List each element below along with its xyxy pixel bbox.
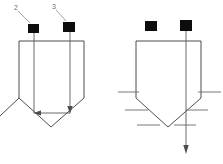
left-vessel-outline [19,41,84,127]
right-dim-down-arrowhead [183,145,188,154]
callout-3-leader-line [56,10,66,21]
left-vertical-dimension-up [31,26,36,113]
left-vertical-dimension-down [67,30,72,114]
right-vessel-diagram [118,20,221,154]
right-marker-square-a [145,21,157,31]
right-vertical-dimension-down [183,30,188,154]
figure-root: 2 3 [0,0,223,164]
left-marker-square-a [28,24,39,33]
left-vessel-diagram: 2 3 [0,3,84,127]
callout-3-label: 3 [52,3,56,10]
left-extension-line [0,98,19,116]
right-vessel-outline [136,41,201,127]
left-marker-square-b [63,22,75,32]
right-marker-square-b [180,20,192,31]
callout-2-label: 2 [14,4,18,11]
technical-drawing-svg: 2 3 [0,0,223,164]
callout-2-leader-line [18,11,30,23]
